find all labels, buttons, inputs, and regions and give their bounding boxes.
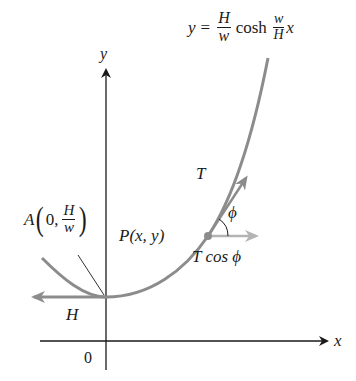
equation-equals: = xyxy=(201,19,211,36)
equation-coefficient: H w xyxy=(217,10,231,45)
tension-arrow xyxy=(208,178,246,236)
coef-numerator: H xyxy=(217,10,231,28)
horizontal-tension-label: H xyxy=(66,306,78,323)
point-a-name: A xyxy=(24,211,34,228)
left-paren: ( xyxy=(36,202,44,236)
catenary-diagram: y = H w cosh w H x y x 0 A ( 0, H w ) P(… xyxy=(0,0,356,381)
point-a-y: H w xyxy=(62,203,75,236)
arg-denominator: H xyxy=(273,28,283,43)
right-paren: ) xyxy=(79,202,87,236)
x-axis-label: x xyxy=(334,332,342,349)
point-a-x: 0, xyxy=(46,211,59,228)
tcos-component-label: T cos ϕ xyxy=(192,248,241,265)
y-axis-label: y xyxy=(100,46,107,62)
equation-argument: w H xyxy=(273,12,284,42)
equation-function: cosh xyxy=(236,19,267,36)
equation-lhs: y xyxy=(188,19,196,36)
angle-phi-arc xyxy=(219,219,228,236)
point-a-label: A ( 0, H w ) xyxy=(24,202,89,236)
arg-numerator: w xyxy=(273,12,284,28)
equation-variable: x xyxy=(286,19,294,36)
point-a-y-numerator: H xyxy=(62,203,75,220)
coef-denominator: w xyxy=(219,28,230,45)
origin-label: 0 xyxy=(84,350,92,366)
point-p-label: P(x, y) xyxy=(119,227,164,244)
point-p-dot xyxy=(204,232,212,240)
tension-label: T xyxy=(196,165,205,182)
point-a-y-denominator: w xyxy=(64,220,74,236)
curve-equation: y = H w cosh w H x xyxy=(188,10,294,45)
diagram-canvas xyxy=(0,0,356,381)
angle-phi-label: ϕ xyxy=(228,204,237,221)
